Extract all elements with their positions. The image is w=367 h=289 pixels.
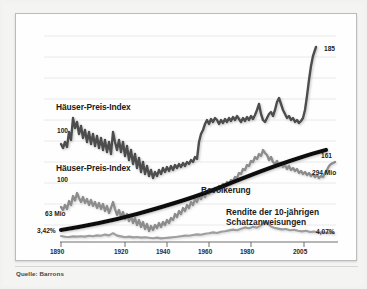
x-tick-label-3: 1960 xyxy=(198,248,212,255)
chart-figure: Häuser-Preis-Index Häuser-Preis-Index Be… xyxy=(0,0,367,289)
value-label-lower-start: 100 xyxy=(57,176,68,183)
value-label-lower-end: 161 xyxy=(321,152,332,159)
x-tick-label-5: 2005 xyxy=(293,248,307,255)
source-note: Quelle: Barrons xyxy=(16,270,64,277)
figure-plate: Häuser-Preis-Index Häuser-Preis-Index Be… xyxy=(3,3,364,286)
x-tick-label-0: 1890 xyxy=(50,248,64,255)
series-label-population: Bevölkerung xyxy=(201,186,251,195)
value-label-population-end: 294 Mio xyxy=(312,169,336,176)
series-label-house-price-index-lower: Häuser-Preis-Index xyxy=(56,164,131,173)
value-label-yield-end: 4,07% xyxy=(316,228,335,235)
value-label-population-start: 63 Mio xyxy=(45,210,66,217)
series-label-yield-line2: Schatzanweisungen xyxy=(226,218,306,227)
series-label-yield-line1: Rendite der 10-jährigen xyxy=(226,208,319,217)
series-label-house-price-index-upper: Häuser-Preis-Index xyxy=(56,103,131,112)
value-label-upper-end: 185 xyxy=(324,45,335,52)
chart-card: Häuser-Preis-Index Häuser-Preis-Index Be… xyxy=(15,13,357,261)
source-divider xyxy=(15,266,358,267)
value-label-yield-start: 3,42% xyxy=(37,227,56,234)
value-label-upper-start: 100 xyxy=(57,127,68,134)
x-tick-label-1: 1920 xyxy=(114,248,128,255)
x-tick-label-2: 1940 xyxy=(156,248,170,255)
x-tick-label-4: 1980 xyxy=(240,248,254,255)
